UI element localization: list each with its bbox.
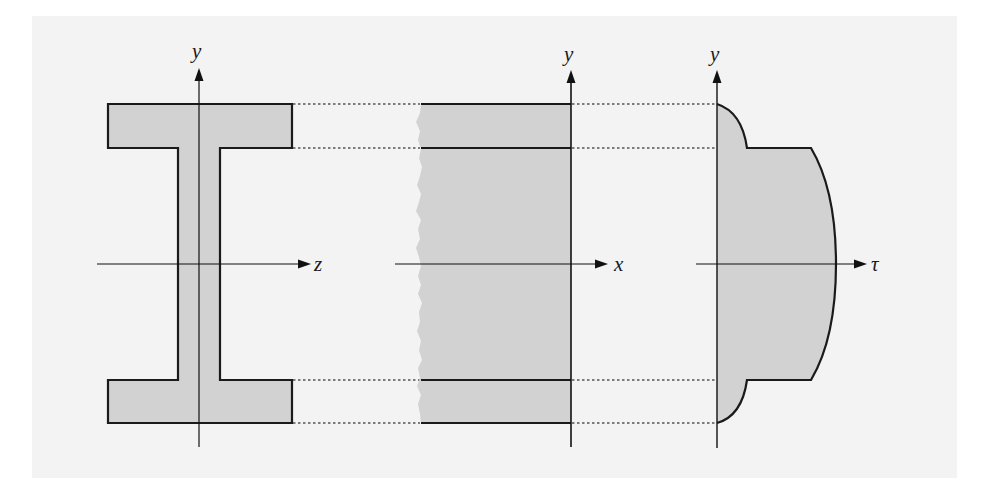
shear-stress-distribution: y τ: [696, 42, 880, 448]
y-axis-shear-arrowhead-icon: [713, 70, 722, 83]
x-axis-label: x: [613, 252, 624, 276]
tau-axis-arrowhead-icon: [854, 260, 867, 269]
y-axis-side-view-arrowhead-icon: [567, 70, 576, 83]
beam-side-view: y x: [395, 42, 624, 447]
y-axis-label-shear: y: [708, 42, 720, 66]
z-axis-label: z: [313, 252, 322, 276]
i-beam-cross-section: y z: [97, 39, 322, 447]
y-axis-label-cross-section: y: [190, 39, 202, 63]
z-axis-arrowhead-icon: [298, 260, 311, 269]
y-axis-arrowhead-icon: [195, 68, 204, 81]
shear-stress-figure: y z y x y τ: [0, 0, 997, 491]
x-axis-arrowhead-icon: [595, 260, 608, 269]
tau-axis-label: τ: [871, 252, 880, 276]
y-axis-label-side-view: y: [562, 42, 574, 66]
